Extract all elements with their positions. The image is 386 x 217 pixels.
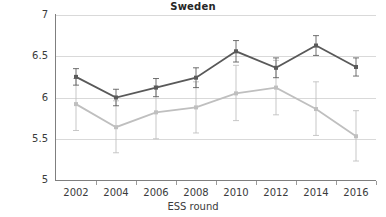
data-point: [354, 65, 358, 69]
data-point: [154, 110, 158, 114]
data-point: [354, 134, 358, 138]
x-axis-title: ESS round: [0, 201, 386, 212]
series-layer: [0, 0, 386, 217]
data-point: [74, 102, 78, 106]
series-light-series: [73, 60, 359, 161]
data-point: [274, 66, 278, 70]
data-point: [74, 75, 78, 79]
data-point: [314, 107, 318, 111]
data-point: [314, 44, 318, 48]
data-point: [274, 86, 278, 90]
data-point: [194, 76, 198, 80]
data-point: [234, 91, 238, 95]
data-point: [234, 49, 238, 53]
data-point: [154, 86, 158, 90]
data-point: [114, 96, 118, 100]
chart-root: Sweden 55.566.57 20022004200620082010201…: [0, 0, 386, 217]
data-point: [114, 125, 118, 129]
data-point: [194, 105, 198, 109]
